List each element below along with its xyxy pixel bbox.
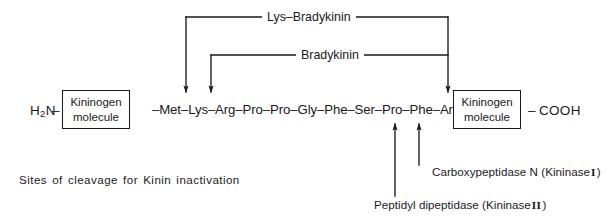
n-terminus-subscript: 2 [40,108,46,119]
peptidyl-dipeptidase-name: Peptidyl dipeptidase [374,198,479,211]
kininogen-molecule-box-left: Kininogen molecule [62,90,130,129]
carboxypeptidase-n-kininase-numeral: I [590,166,597,178]
kininogen-box-left-line1: Kininogen [70,95,121,110]
bracket-label-lys-bradykinin: Lys–Bradykinin [262,11,356,23]
n-terminus-h: H [30,103,40,118]
carboxypeptidase-n-kininase-open: (Kininase [541,165,590,178]
kininogen-box-right-line2: molecule [464,110,510,125]
kininogen-box-right-line1: Kininogen [461,95,512,110]
carboxypeptidase-n-kininase-close: ) [597,165,601,178]
peptidyl-dipeptidase-kininase-close: ) [542,198,546,211]
dash-left-of-kininogen: – [52,104,60,118]
enzyme-label-carboxypeptidase-n: Carboxypeptidase N (KininaseI) [432,166,601,178]
c-terminus-label: COOH [539,104,581,118]
figure-canvas: Lys–Bradykinin Bradykinin H2N – Kininoge… [0,0,609,217]
enzyme-label-peptidyl-dipeptidase: Peptidyl dipeptidase (KininaseII) [374,199,546,211]
carboxypeptidase-n-name: Carboxypeptidase N [432,165,538,178]
figure-caption-note: Sites of cleavage for Kinin inactivation [19,174,240,186]
bracket-label-bradykinin: Bradykinin [296,49,364,61]
peptidyl-dipeptidase-kininase-numeral: II [531,199,543,211]
kininogen-box-left-line2: molecule [73,110,119,125]
kininogen-molecule-box-right: Kininogen molecule [453,90,521,129]
peptide-sequence: –Met–Lys–Arg–Pro–Pro–Gly–Phe–Ser–Pro–Phe… [152,103,467,116]
peptidyl-dipeptidase-kininase-open: (Kininase [482,198,531,211]
dash-right-of-kininogen: – [528,104,536,118]
